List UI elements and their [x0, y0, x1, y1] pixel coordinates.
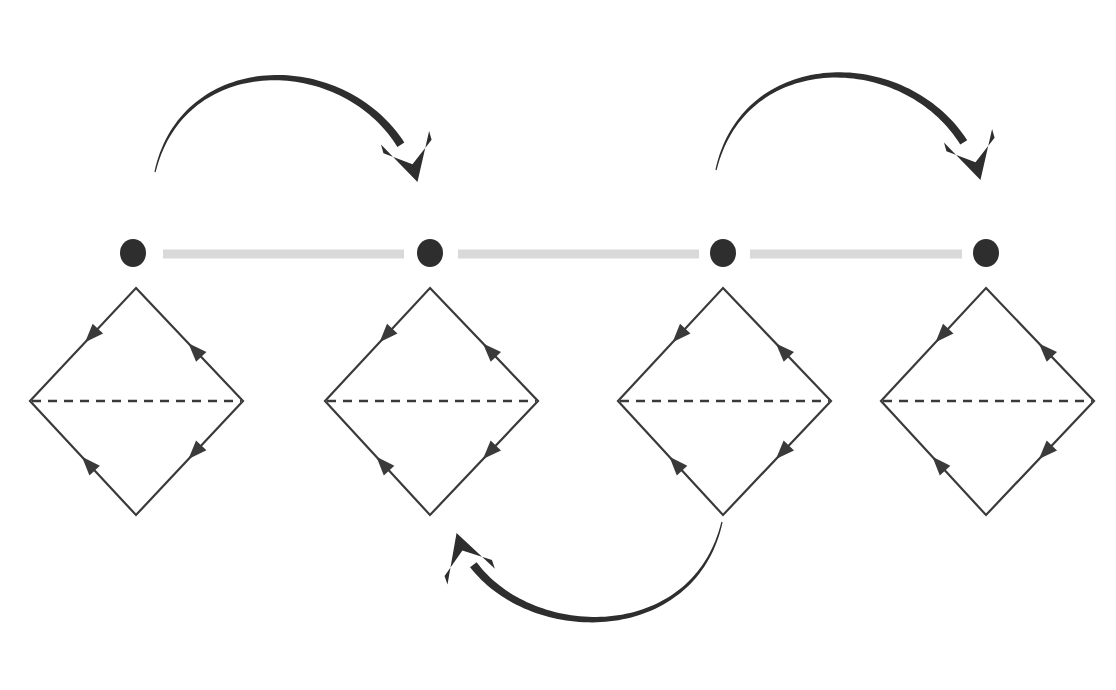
diagram-figure: Chain of four directed rhombus cells lin…: [0, 0, 1116, 690]
spine-node-dot-3: [710, 239, 736, 267]
diagram-canvas: Chain of four directed rhombus cells lin…: [0, 0, 1116, 690]
figure-background: [0, 0, 1116, 690]
spine-node-dot-4: [973, 239, 999, 267]
spine-node-dot-2: [417, 239, 443, 267]
spine-node-dot-1: [120, 239, 146, 267]
